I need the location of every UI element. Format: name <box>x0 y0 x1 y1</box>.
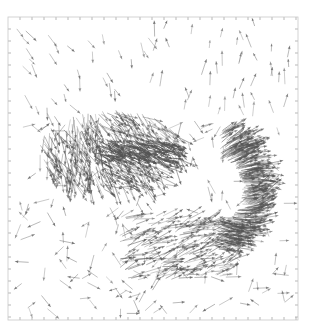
quiver-plot <box>0 0 312 330</box>
vector-arrows <box>14 18 297 318</box>
